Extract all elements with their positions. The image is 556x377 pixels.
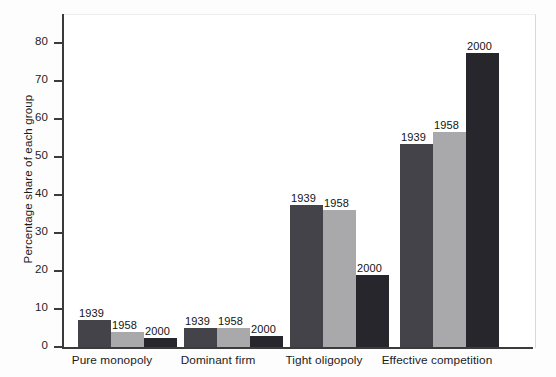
bar-tight-oligopoly-2000 xyxy=(356,275,389,347)
y-axis-tick xyxy=(54,346,63,348)
bar-tight-oligopoly-1939 xyxy=(290,205,323,348)
bar-chart-figure: the market structure of the economy has … xyxy=(0,0,556,377)
y-axis-tick xyxy=(54,42,63,44)
bar-group: 193919582000 xyxy=(290,14,389,347)
y-axis-tick-label: 10 xyxy=(2,301,48,313)
bar-group: 193919582000 xyxy=(184,14,283,347)
bar-dominant-firm-1958 xyxy=(217,328,250,347)
y-axis-tick xyxy=(54,270,63,272)
bar-value-label: 2000 xyxy=(145,325,170,337)
bar-pure-monopoly-2000 xyxy=(144,338,177,348)
y-axis-tick-label: 20 xyxy=(2,263,48,275)
bar-value-label: 1958 xyxy=(434,119,459,131)
bar-value-label: 2000 xyxy=(251,323,276,335)
bar-value-label: 2000 xyxy=(357,262,382,274)
bar-group: 193919582000 xyxy=(78,14,177,347)
x-axis-line xyxy=(62,347,533,349)
bar-value-label: 1939 xyxy=(291,192,316,204)
y-axis-tick-label: 40 xyxy=(2,187,48,199)
bar-value-label: 1958 xyxy=(218,315,243,327)
y-axis-tick xyxy=(54,118,63,120)
y-axis-tick-label: 30 xyxy=(2,225,48,237)
bar-pure-monopoly-1958 xyxy=(111,332,144,347)
y-axis-tick-label: 70 xyxy=(2,73,48,85)
y-axis-tick-label: 80 xyxy=(2,35,48,47)
y-axis-tick xyxy=(54,232,63,234)
y-axis-tick xyxy=(54,308,63,310)
y-axis-tick-label: 60 xyxy=(2,111,48,123)
bar-group: 193919582000 xyxy=(400,14,499,347)
y-axis-tick xyxy=(54,194,63,196)
bar-value-label: 1958 xyxy=(324,197,349,209)
y-axis-tick xyxy=(54,156,63,158)
bar-value-label: 1939 xyxy=(185,315,210,327)
bar-tight-oligopoly-1958 xyxy=(323,210,356,347)
bar-effective-competition-1939 xyxy=(400,144,433,347)
bar-value-label: 1958 xyxy=(112,319,137,331)
bar-value-label: 1939 xyxy=(79,307,104,319)
bar-dominant-firm-1939 xyxy=(184,328,217,347)
bar-value-label: 2000 xyxy=(467,40,492,52)
y-axis-tick-label: 0 xyxy=(2,339,48,351)
bars-layer: 1939195820001939195820001939195820001939… xyxy=(64,14,533,347)
bar-value-label: 1939 xyxy=(401,131,426,143)
y-axis-tick-label: 50 xyxy=(2,149,48,161)
bar-effective-competition-2000 xyxy=(466,53,499,348)
bar-effective-competition-1958 xyxy=(433,132,466,347)
bar-pure-monopoly-1939 xyxy=(78,320,111,347)
x-axis-label-effective-competition: Effective competition xyxy=(347,353,527,367)
bar-dominant-firm-2000 xyxy=(250,336,283,347)
y-axis-tick xyxy=(54,80,63,82)
